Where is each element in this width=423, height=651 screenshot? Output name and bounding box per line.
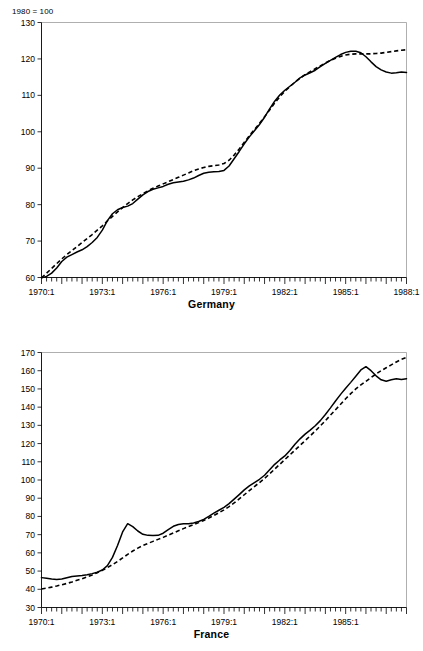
x-axis-tick-label: 1973:1 xyxy=(89,287,115,297)
chart-page: { "page": { "index_note": "1980 = 100" }… xyxy=(0,0,423,651)
panel-title-germany: Germany xyxy=(0,298,423,310)
y-axis-tick-label: 40 xyxy=(26,584,36,594)
y-axis-tick-label: 70 xyxy=(26,530,36,540)
x-axis-tick-label: 1979:1 xyxy=(211,287,237,297)
y-axis-tick-label: 160 xyxy=(21,366,35,376)
france-plot-svg: 3040506070809010011012013014015016017019… xyxy=(0,330,423,630)
y-axis-tick-label: 100 xyxy=(21,475,35,485)
x-axis-tick-label: 1988:1 xyxy=(394,287,420,297)
y-axis-tick-label: 130 xyxy=(21,420,35,430)
y-axis-tick-label: 80 xyxy=(26,511,36,521)
y-axis-tick-label: 170 xyxy=(21,348,35,358)
x-axis-tick-label: 1982:1 xyxy=(272,287,298,297)
y-axis-tick-label: 110 xyxy=(21,457,35,467)
y-axis-tick-label: 120 xyxy=(21,54,35,64)
y-axis-tick-label: 60 xyxy=(26,273,36,283)
x-axis-tick-label: 1976:1 xyxy=(150,287,176,297)
chart-panel-germany: 1980 = 100 607080901001101201301970:1197… xyxy=(0,0,423,320)
y-axis-tick-label: 120 xyxy=(21,439,35,449)
y-axis-tick-label: 50 xyxy=(26,566,36,576)
x-axis-tick-label: 1973:1 xyxy=(89,617,115,627)
x-axis-tick-label: 1985:1 xyxy=(333,287,359,297)
panel-title-france: France xyxy=(0,628,423,640)
y-axis-tick-label: 70 xyxy=(26,236,36,246)
y-axis-tick-label: 140 xyxy=(21,402,35,412)
y-axis-tick-label: 110 xyxy=(21,90,35,100)
y-axis-tick-label: 150 xyxy=(21,384,35,394)
y-axis-tick-label: 130 xyxy=(21,18,35,28)
y-axis-tick-label: 90 xyxy=(26,493,36,503)
x-axis-tick-label: 1976:1 xyxy=(150,617,176,627)
y-axis-tick-label: 30 xyxy=(26,603,36,613)
chart-panel-france: 3040506070809010011012013014015016017019… xyxy=(0,330,423,651)
x-axis-tick-label: 1970:1 xyxy=(29,287,55,297)
series-line-fitted xyxy=(42,357,407,589)
y-axis-tick-label: 90 xyxy=(26,163,36,173)
x-axis-tick-label: 1979:1 xyxy=(211,617,237,627)
series-line-actual xyxy=(42,367,407,580)
y-axis-tick-label: 60 xyxy=(26,548,36,558)
series-line-fitted xyxy=(42,50,407,278)
x-axis-tick-label: 1970:1 xyxy=(29,617,55,627)
germany-plot-svg: 607080901001101201301970:11973:11976:119… xyxy=(0,0,423,300)
y-axis-tick-label: 100 xyxy=(21,127,35,137)
series-line-actual xyxy=(42,51,407,278)
x-axis-tick-label: 1985:1 xyxy=(333,617,359,627)
y-axis-tick-label: 80 xyxy=(26,200,36,210)
x-axis-tick-label: 1982:1 xyxy=(272,617,298,627)
